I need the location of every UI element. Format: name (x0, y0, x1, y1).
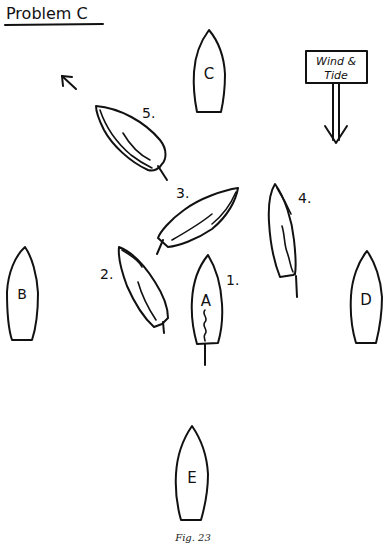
figure-caption: Fig. 23 (174, 532, 211, 543)
yacht-4: 4. (269, 184, 312, 297)
title: Problem C (5, 4, 103, 25)
yacht-5: 5. (96, 105, 167, 180)
wind-tide-sign: Wind & Tide (306, 51, 367, 143)
wind-tide-line2: Tide (324, 69, 348, 82)
mark-c-label: C (204, 65, 214, 83)
title-text: Problem C (6, 4, 88, 23)
yacht-1-label: 1. (226, 272, 239, 288)
yacht-3: 3. (157, 185, 238, 254)
mark-d-label: D (360, 291, 372, 309)
mark-e: E (176, 426, 208, 520)
yacht-2: 2. (100, 247, 168, 333)
mark-a-label: A (201, 292, 212, 310)
mark-b: B (7, 247, 38, 340)
diagram-canvas: Problem C Wind & Tide C B D E (0, 0, 386, 545)
yacht-3-label: 3. (176, 185, 189, 201)
yacht-5-label: 5. (142, 105, 155, 121)
yacht-1-mark-a: A 1. (192, 255, 240, 365)
yacht-2-label: 2. (100, 266, 113, 282)
wind-tide-line1: Wind & (316, 55, 356, 68)
mark-d: D (351, 251, 382, 343)
mark-c: C (194, 30, 225, 112)
mark-b-label: B (17, 286, 27, 302)
arrow-down-icon (325, 83, 347, 143)
title-underline (5, 24, 103, 25)
mark-e-label: E (187, 469, 196, 487)
arrow-up-left-icon (62, 76, 76, 89)
yacht-4-label: 4. (298, 190, 311, 206)
